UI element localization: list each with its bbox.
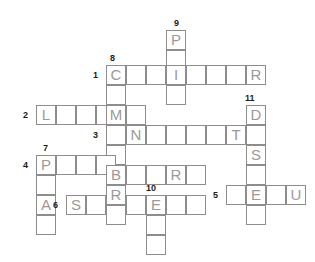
crossword-cell-empty[interactable] <box>186 165 206 185</box>
crossword-cell-empty[interactable] <box>106 85 126 105</box>
crossword-cell-empty[interactable] <box>126 65 146 85</box>
crossword-cell-filled[interactable]: D <box>246 105 266 125</box>
clue-number: 10 <box>146 183 156 193</box>
crossword-cell-filled[interactable]: R <box>246 65 266 85</box>
crossword-cell-empty[interactable] <box>126 195 146 215</box>
crossword-cell-empty[interactable] <box>36 175 56 195</box>
crossword-cell-filled[interactable]: L <box>36 105 56 125</box>
crossword-cell-empty[interactable] <box>56 105 76 125</box>
crossword-cell-empty[interactable] <box>246 165 266 185</box>
crossword-cell-empty[interactable] <box>166 125 186 145</box>
crossword-cell-empty[interactable] <box>146 215 166 235</box>
clue-number: 1 <box>93 70 98 80</box>
crossword-cell-filled[interactable]: B <box>106 165 126 185</box>
crossword-cell-filled[interactable]: M <box>106 105 126 125</box>
clue-number: 5 <box>213 190 218 200</box>
crossword-cell-empty[interactable] <box>246 125 266 145</box>
crossword-cell-empty[interactable] <box>126 165 146 185</box>
crossword-cell-empty[interactable] <box>266 185 286 205</box>
crossword-cell-empty[interactable] <box>206 65 226 85</box>
crossword-cell-filled[interactable]: R <box>106 185 126 205</box>
crossword-cell-filled[interactable]: R <box>166 165 186 185</box>
crossword-cell-filled[interactable]: N <box>126 125 146 145</box>
crossword-cell-empty[interactable] <box>186 65 206 85</box>
crossword-cell-empty[interactable] <box>186 125 206 145</box>
crossword-cell-filled[interactable]: C <box>106 65 126 85</box>
crossword-cell-empty[interactable] <box>36 215 56 235</box>
crossword-cell-empty[interactable] <box>226 65 246 85</box>
crossword-cell-filled[interactable]: E <box>146 195 166 215</box>
crossword-cell-filled[interactable]: P <box>36 155 56 175</box>
clue-number: 9 <box>174 18 179 28</box>
crossword-cell-empty[interactable] <box>106 205 126 225</box>
crossword-puzzle: PCIRLMDNTSPBRREUASE9811123741056 <box>0 0 315 262</box>
crossword-cell-empty[interactable] <box>146 125 166 145</box>
crossword-cell-empty[interactable] <box>56 155 76 175</box>
crossword-cell-empty[interactable] <box>76 155 96 175</box>
crossword-cell-empty[interactable] <box>226 185 246 205</box>
crossword-cell-empty[interactable] <box>146 65 166 85</box>
crossword-cell-empty[interactable] <box>166 85 186 105</box>
crossword-cell-empty[interactable] <box>146 235 166 255</box>
crossword-cell-empty[interactable] <box>76 105 96 125</box>
clue-number: 8 <box>110 53 115 63</box>
crossword-cell-empty[interactable] <box>186 195 206 215</box>
crossword-cell-filled[interactable]: S <box>246 145 266 165</box>
crossword-cell-filled[interactable]: U <box>286 185 306 205</box>
crossword-cell-filled[interactable]: E <box>246 185 266 205</box>
crossword-cell-empty[interactable] <box>126 105 146 125</box>
crossword-cell-filled[interactable]: I <box>166 65 186 85</box>
clue-number: 7 <box>43 143 48 153</box>
crossword-cell-empty[interactable] <box>206 125 226 145</box>
crossword-cell-empty[interactable] <box>166 195 186 215</box>
crossword-cell-filled[interactable]: S <box>66 195 86 215</box>
crossword-cell-empty[interactable] <box>106 125 126 145</box>
clue-number: 6 <box>53 200 58 210</box>
clue-number: 4 <box>23 160 28 170</box>
clue-number: 3 <box>93 130 98 140</box>
crossword-cell-empty[interactable] <box>146 165 166 185</box>
crossword-cell-empty[interactable] <box>246 205 266 225</box>
crossword-cell-empty[interactable] <box>86 195 106 215</box>
crossword-cell-filled[interactable]: P <box>166 30 186 50</box>
clue-number: 2 <box>23 110 28 120</box>
clue-number: 11 <box>245 93 255 103</box>
crossword-cell-filled[interactable]: T <box>226 125 246 145</box>
